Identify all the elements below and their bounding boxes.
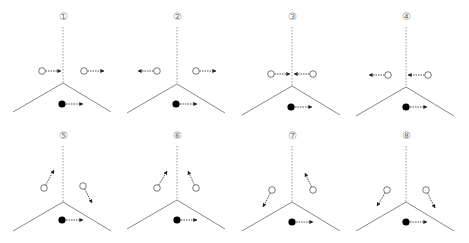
motion-arrow (263, 193, 270, 207)
motion-arrow (305, 173, 312, 187)
filled-particle (58, 216, 65, 223)
panel-3: ③ (242, 11, 340, 115)
motion-arrow (377, 193, 385, 206)
right-boundary (406, 87, 454, 116)
panel-2: ② (127, 11, 225, 113)
open-particle (425, 72, 432, 79)
motion-arrow (428, 193, 435, 208)
right-boundary (177, 84, 225, 113)
right-boundary (63, 202, 111, 231)
right-boundary (292, 86, 340, 115)
filled-particle (173, 216, 180, 223)
open-particle (310, 187, 317, 194)
left-boundary (13, 202, 63, 231)
motion-arrow (46, 170, 54, 185)
open-particle (423, 187, 430, 194)
open-particle (193, 185, 200, 192)
filled-particle (58, 100, 65, 107)
open-particle (310, 71, 317, 78)
left-boundary (356, 202, 406, 231)
panel-1: ① (13, 11, 111, 112)
left-boundary (242, 86, 292, 115)
open-particle (39, 68, 46, 75)
filled-particle (172, 100, 179, 107)
panel-7: ⑦ (242, 130, 340, 231)
open-particle (80, 183, 87, 190)
panel-4: ④ (356, 11, 454, 116)
panel-6: ⑥ (127, 130, 225, 229)
panel-label: ⑦ (288, 130, 297, 141)
left-boundary (356, 87, 406, 116)
panel-label: ③ (288, 11, 297, 22)
motion-arrow (159, 171, 167, 185)
panel-label: ④ (402, 11, 411, 22)
panel-8: ⑧ (356, 130, 454, 231)
open-particle (268, 71, 275, 78)
panel-label: ⑥ (173, 130, 182, 141)
open-particle (269, 187, 276, 194)
open-particle (41, 185, 48, 192)
motion-arrow (85, 189, 92, 203)
open-particle (193, 68, 200, 75)
triple-junction-figure: ①②③④⑤⑥⑦⑧ (0, 0, 469, 243)
open-particle (384, 187, 391, 194)
filled-particle (402, 218, 409, 225)
left-boundary (13, 83, 63, 112)
panel-label: ⑧ (402, 130, 411, 141)
open-particle (81, 68, 88, 75)
filled-particle (402, 103, 409, 110)
panel-label: ① (59, 11, 68, 22)
open-particle (385, 72, 392, 79)
panel-5: ⑤ (13, 130, 111, 231)
right-boundary (63, 83, 111, 112)
left-boundary (127, 200, 177, 229)
right-boundary (406, 202, 454, 231)
motion-arrow (188, 171, 195, 185)
panel-label: ② (173, 11, 182, 22)
open-particle (154, 68, 161, 75)
right-boundary (292, 202, 340, 231)
left-boundary (242, 202, 292, 231)
left-boundary (127, 84, 177, 113)
filled-particle (288, 218, 295, 225)
right-boundary (177, 200, 225, 229)
open-particle (154, 185, 161, 192)
panel-label: ⑤ (59, 130, 68, 141)
filled-particle (287, 103, 294, 110)
